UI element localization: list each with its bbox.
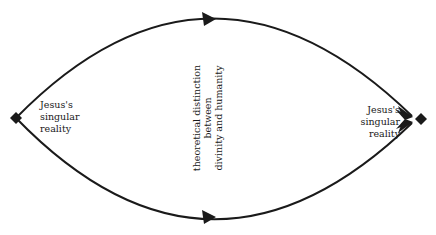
center-label-line-2: between <box>202 43 213 193</box>
right-label-line-3: reality <box>340 128 400 140</box>
left-node-label: Jesus's singular reality <box>40 99 79 135</box>
left-label-line-3: reality <box>40 123 79 135</box>
right-node-diamond-icon <box>415 113 427 125</box>
center-label-line-3: divinity and humanity <box>213 43 224 193</box>
right-label-line-1: Jesus's <box>340 104 400 116</box>
center-label-line-1: theoretical distinction <box>191 43 202 193</box>
right-node-label: Jesus's singular reality <box>340 104 400 140</box>
right-label-line-2: singular <box>340 116 400 128</box>
upper-arrow-icon <box>202 12 216 26</box>
left-label-line-1: Jesus's <box>40 99 79 111</box>
center-distinction-label: theoretical distinction between divinity… <box>191 43 224 193</box>
lower-arrow-icon <box>202 210 216 224</box>
left-label-line-2: singular <box>40 111 79 123</box>
